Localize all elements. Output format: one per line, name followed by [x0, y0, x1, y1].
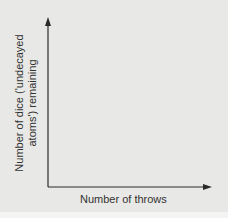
x-axis-arrow-icon: [203, 184, 212, 190]
y-axis-label-line-1: Number of dice ('undecayed: [13, 18, 26, 188]
x-axis-label: Number of throws: [80, 193, 167, 205]
y-axis-arrow-icon: [45, 17, 51, 26]
y-axis-label: Number of dice ('undecayed atoms') remai…: [13, 18, 39, 188]
y-axis-label-line-2: atoms') remaining: [26, 18, 39, 188]
